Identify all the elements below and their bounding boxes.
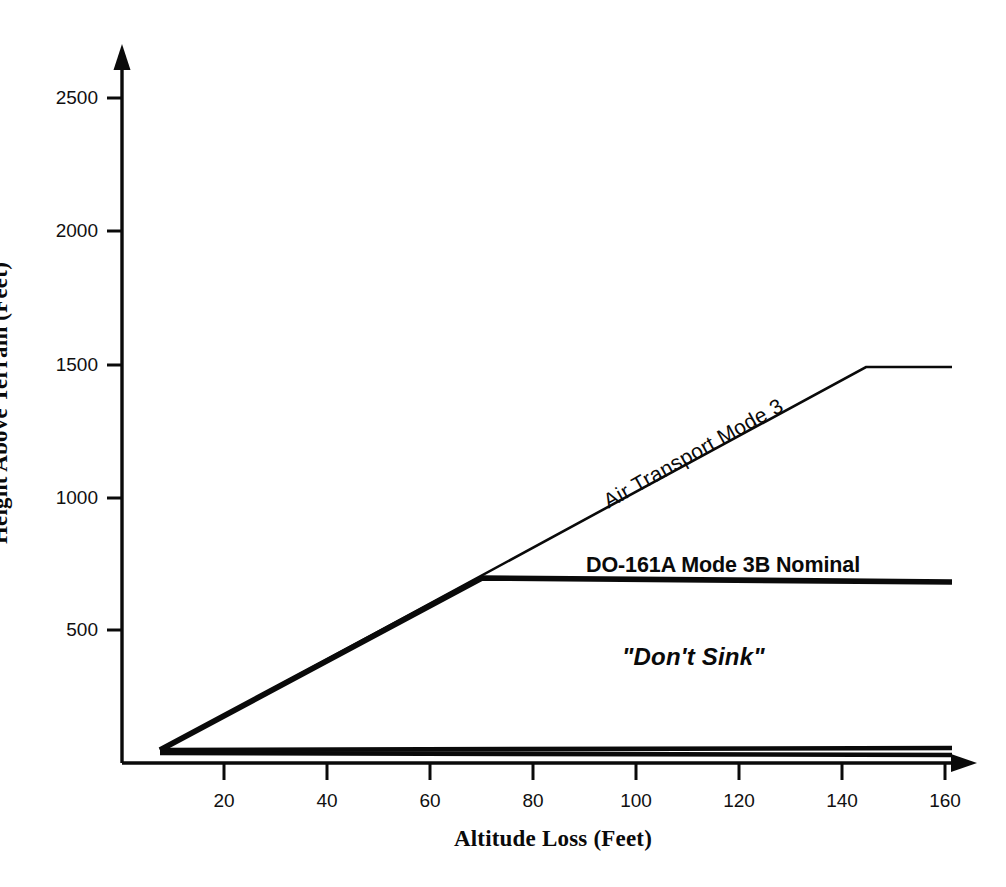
annotation-dont-sink: "Don't Sink" [622, 643, 765, 671]
y-axis-ticks [107, 98, 122, 630]
x-tick-label-60: 60 [419, 790, 440, 812]
y-axis [114, 44, 131, 763]
x-tick-label-120: 120 [723, 790, 755, 812]
x-axis-ticks [224, 763, 945, 780]
y-tick-label-2000: 2000 [40, 220, 98, 242]
chart-figure: 2500 2000 1500 1000 500 20 40 60 80 100 … [0, 0, 1006, 887]
x-tick-label-20: 20 [213, 790, 234, 812]
y-axis-title: Height Above Terrain (Feet) [0, 262, 13, 544]
y-tick-label-1500: 1500 [40, 354, 98, 376]
x-tick-label-140: 140 [826, 790, 858, 812]
x-tick-label-160: 160 [929, 790, 961, 812]
series-label-do-161a-mode-3b-nominal: DO-161A Mode 3B Nominal [586, 553, 860, 578]
x-tick-label-100: 100 [620, 790, 652, 812]
series-lower-boundary-upper [160, 748, 952, 750]
y-tick-label-1000: 1000 [40, 487, 98, 509]
series-lower-boundary-lower [160, 753, 952, 755]
x-tick-label-40: 40 [316, 790, 337, 812]
x-axis-title: Altitude Loss (Feet) [454, 826, 652, 852]
x-tick-label-80: 80 [522, 790, 543, 812]
y-tick-label-2500: 2500 [40, 87, 98, 109]
series-do-161a-mode-3b-nominal [160, 578, 952, 750]
chart-canvas [0, 0, 1006, 887]
y-tick-label-500: 500 [40, 619, 98, 641]
